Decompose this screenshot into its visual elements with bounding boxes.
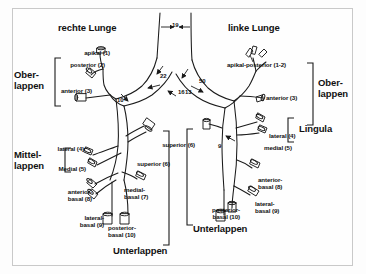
left-segment-posterior-basal: posterior-basal (10) [196,206,240,220]
left-segment-apikal-posterior: apikal-posterior (1-2) [227,62,286,69]
angle-arrow-22-lower [148,85,160,88]
right-segment-apikal: apikal (1) [62,50,110,57]
left-segment-anterior-basal: anterior-basal (8) [258,176,298,190]
left-lower-lobe-label: Unterlappen [193,224,247,234]
angle-label-left-main-upper: 13 [185,89,191,95]
angle-arrow-50 [191,86,203,92]
angle-label-trachea-width: 19 [172,22,178,28]
angle-arrow-9 [226,136,235,141]
right-segment-superior: superior (6) [137,161,170,168]
left-lung-title: linke Lunge [228,23,280,33]
angle-label-right-main-lower: 16 [178,89,184,95]
left-segment-anterior: anterior (3) [266,95,297,102]
right-lower-lobe-label: Unterlappen [113,246,167,256]
angle-label-left-main-lower: 50 [199,78,205,84]
left-segment-lateral: lateral (4) [269,133,295,140]
bronchial-tree-drawing [0,0,366,274]
right-segment-posterior-basal: posterior-basal (10) [108,224,150,238]
angle-label-right-main-upper: 22 [160,73,166,79]
angle-label-right-upper-branch: 10 [117,97,123,103]
angle-label-left-lower-branch: 9 [218,143,221,149]
left-lingula-label: Lingula [299,124,332,134]
right-segment-lateral-basal: lateral-basal (9) [66,214,104,228]
bronchial-tree-figure: rechte Lunge linke Lunge 19 22 16 10 13 … [0,0,366,274]
right-segment-medial: Medial (5) [44,166,86,173]
right-segment-posterior: posterior (2) [47,62,105,69]
right-segment-medial-basal: medial-basal (7) [124,186,164,200]
right-segment-lateral: lateral (4) [44,146,84,153]
left-segment-superior: superior (6) [151,142,195,149]
left-segment-lateral-basal: lateral-basal (9) [255,200,293,214]
bracket-left-upper [307,63,313,125]
right-segment-anterior-basal: anterior-basal (8) [52,188,92,202]
angle-arrow-13-upper [182,69,188,78]
right-segment-anterior: anterior (3) [40,88,92,95]
right-lung-title: rechte Lunge [58,23,116,33]
angle-arrow-16 [168,91,176,96]
left-segment-medial: medial (5) [264,145,292,152]
left-upper-lobe-label: Ober-lappen [318,78,364,99]
